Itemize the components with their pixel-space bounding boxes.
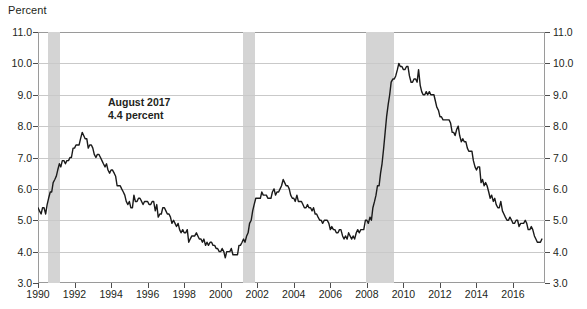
y-tick-label-left: 9.0 <box>2 89 32 101</box>
y-tick-label-left: 11.0 <box>2 26 32 38</box>
y-tick-label-right: 10.0 <box>553 57 585 69</box>
x-tick-label: 2016 <box>493 288 533 300</box>
y-tick-label-right: 5.0 <box>553 214 585 226</box>
y-tick-label-left: 4.0 <box>2 246 32 258</box>
y-tick-mark-left <box>33 252 38 253</box>
y-tick-mark-left <box>33 126 38 127</box>
x-tick-label: 2002 <box>237 288 277 300</box>
x-tick-label: 2006 <box>310 288 350 300</box>
x-tick-label: 2010 <box>383 288 423 300</box>
y-tick-mark-right <box>545 158 550 159</box>
x-tick-label: 2012 <box>420 288 460 300</box>
y-tick-mark-left <box>33 32 38 33</box>
series-line-unemployment-rate <box>38 32 545 283</box>
y-tick-label-left: 10.0 <box>2 57 32 69</box>
y-tick-mark-left <box>33 158 38 159</box>
y-tick-label-right: 6.0 <box>553 183 585 195</box>
x-tick-label: 1996 <box>128 288 168 300</box>
y-tick-mark-right <box>545 32 550 33</box>
y-tick-label-right: 8.0 <box>553 120 585 132</box>
x-tick-label: 1998 <box>164 288 204 300</box>
x-tick-label: 1994 <box>91 288 131 300</box>
y-tick-mark-right <box>545 95 550 96</box>
y-tick-mark-left <box>33 189 38 190</box>
y-tick-label-left: 7.0 <box>2 152 32 164</box>
y-tick-mark-right <box>545 283 550 284</box>
y-tick-label-left: 8.0 <box>2 120 32 132</box>
y-tick-label-left: 5.0 <box>2 214 32 226</box>
x-tick-label: 2004 <box>274 288 314 300</box>
y-tick-label-right: 7.0 <box>553 152 585 164</box>
y-tick-label-right: 3.0 <box>553 277 585 289</box>
x-tick-label: 2008 <box>347 288 387 300</box>
x-tick-label: 1990 <box>18 288 58 300</box>
y-tick-mark-right <box>545 252 550 253</box>
x-tick-label: 2014 <box>456 288 496 300</box>
y-axis-title: Percent <box>8 4 47 16</box>
unemployment-rate-chart: Percent 3.03.04.04.05.05.06.06.07.07.08.… <box>0 0 587 309</box>
y-tick-mark-right <box>545 220 550 221</box>
y-tick-mark-left <box>33 95 38 96</box>
x-tick-label: 1992 <box>55 288 95 300</box>
y-tick-label-right: 9.0 <box>553 89 585 101</box>
annotation-august-2017: August 2017 4.4 percent <box>108 96 170 122</box>
y-tick-mark-right <box>545 63 550 64</box>
y-tick-mark-left <box>33 63 38 64</box>
y-tick-label-right: 4.0 <box>553 246 585 258</box>
x-tick-label: 2000 <box>201 288 241 300</box>
y-tick-label-right: 11.0 <box>553 26 585 38</box>
y-tick-mark-right <box>545 189 550 190</box>
y-tick-mark-left <box>33 220 38 221</box>
y-tick-mark-right <box>545 126 550 127</box>
plot-area <box>38 32 545 283</box>
y-tick-label-left: 6.0 <box>2 183 32 195</box>
